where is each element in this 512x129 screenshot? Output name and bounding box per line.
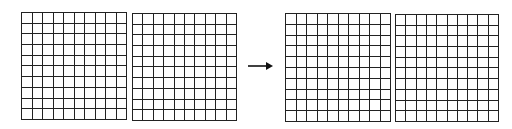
right-arrow-icon <box>0 0 512 129</box>
